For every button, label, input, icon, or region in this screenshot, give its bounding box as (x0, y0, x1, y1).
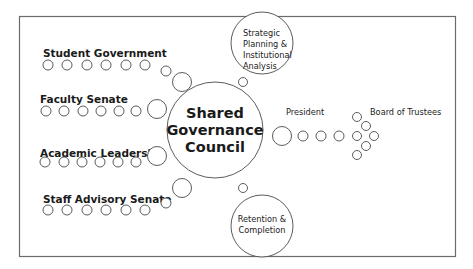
group-label-faculty-senate: Faculty Senate (40, 93, 128, 105)
center-node-shared-governance-council: Shared Governance Council (166, 82, 263, 178)
center-label-line-1: Shared (186, 105, 244, 121)
satellite-label-line: Analysis (243, 61, 277, 71)
governance-diagram: Student Government Faculty Senate Academ… (0, 0, 473, 269)
group-label-staff-advisory-senate: Staff Advisory Senate (43, 193, 171, 205)
satellite-label-line: Institutional (243, 50, 292, 60)
satellite-label-line: Retention & (238, 214, 287, 224)
connector-bubble (239, 184, 248, 193)
connector-bubble (239, 78, 248, 87)
president-label: President (286, 107, 325, 117)
satellite-label-line: Completion (239, 225, 286, 235)
satellite-label-line: Strategic (243, 28, 280, 38)
group-label-student-government: Student Government (43, 47, 167, 59)
board-of-trustees-label: Board of Trustees (370, 107, 441, 117)
satellite-label-line: Planning & (243, 39, 288, 49)
center-label-line-3: Council (185, 139, 245, 155)
center-label-line-2: Governance (166, 122, 263, 138)
